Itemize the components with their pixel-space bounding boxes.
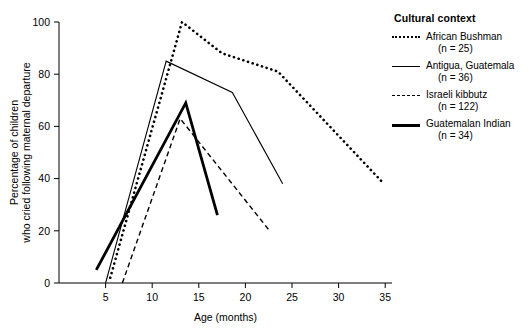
- legend-n-antigua-guatemala: (n = 36): [438, 72, 529, 84]
- legend-label-israeli-kibbutz: Israeli kibbutz: [426, 89, 487, 101]
- series-line-african-bushman: [110, 22, 381, 278]
- legend-swatch-thick-solid-line: [392, 119, 420, 129]
- axes: [54, 22, 392, 288]
- series-lines: [96, 22, 381, 283]
- svg-text:60: 60: [38, 120, 50, 132]
- svg-text:10: 10: [146, 291, 158, 303]
- svg-text:35: 35: [379, 291, 391, 303]
- legend-swatch-dashed-line: [392, 90, 420, 100]
- svg-text:40: 40: [38, 172, 50, 184]
- svg-text:Age (months): Age (months): [194, 311, 257, 323]
- svg-text:5: 5: [103, 291, 109, 303]
- svg-text:20: 20: [240, 291, 252, 303]
- series-line-antigua-guatemala: [106, 61, 283, 283]
- legend-entry-antigua-guatemala[interactable]: Antigua, Guatemala (n = 36): [392, 60, 529, 84]
- legend-swatch-thin-solid-line: [392, 61, 420, 71]
- legend: Cultural context African Bushman (n = 25…: [392, 12, 529, 147]
- svg-text:80: 80: [38, 68, 50, 80]
- svg-text:20: 20: [38, 225, 50, 237]
- legend-entry-israeli-kibbutz[interactable]: Israeli kibbutz (n = 122): [392, 89, 529, 113]
- legend-label-guatemalan-indian: Guatemalan Indian: [426, 118, 511, 130]
- legend-entry-african-bushman[interactable]: African Bushman (n = 25): [392, 31, 529, 55]
- legend-n-african-bushman: (n = 25): [438, 43, 529, 55]
- svg-text:15: 15: [193, 291, 205, 303]
- svg-text:100: 100: [32, 16, 50, 28]
- svg-text:who cried following maternal d: who cried following maternal departure: [20, 62, 32, 244]
- legend-label-antigua-guatemala: Antigua, Guatemala: [426, 60, 514, 72]
- svg-text:0: 0: [44, 277, 50, 289]
- legend-n-guatemalan-indian: (n = 34): [438, 130, 529, 142]
- svg-text:30: 30: [333, 291, 345, 303]
- legend-label-african-bushman: African Bushman: [426, 31, 502, 43]
- chart-page: 0204060801005101520253035Age (months)Per…: [0, 0, 529, 330]
- svg-text:Percentage of children: Percentage of children: [8, 100, 20, 205]
- legend-n-israeli-kibbutz: (n = 122): [438, 101, 529, 113]
- axis-labels: 0204060801005101520253035Age (months)Per…: [8, 16, 391, 323]
- legend-entry-guatemalan-indian[interactable]: Guatemalan Indian (n = 34): [392, 118, 529, 142]
- svg-text:25: 25: [286, 291, 298, 303]
- legend-title: Cultural context: [394, 12, 529, 24]
- legend-swatch-dotted-line: [392, 32, 420, 42]
